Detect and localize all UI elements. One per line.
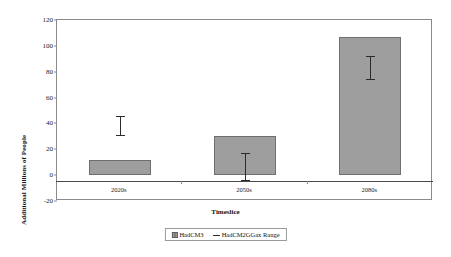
x-axis-tick-mark [307, 181, 308, 184]
error-bar-cap-2080s-low [366, 79, 375, 80]
error-bar-2080s [370, 56, 371, 79]
y-axis-tick-mark [54, 97, 57, 98]
y-axis-tick-label: 100 [43, 42, 54, 49]
plot-area: 120100806040200-20 [56, 19, 432, 200]
x-axis-tick-label-2020s: 2020s [111, 186, 127, 193]
y-axis-tick-label: 60 [46, 94, 53, 101]
y-axis-tick-label: -20 [44, 198, 53, 205]
bar-swatch-icon [171, 232, 177, 238]
legend-item-series: HadCM3 [171, 231, 203, 238]
y-axis-tick-mark [54, 175, 57, 176]
error-bar-2020s [120, 116, 121, 135]
x-axis-title: Timeslice [0, 208, 451, 216]
y-axis-tick-mark [54, 71, 57, 72]
x-axis-tick-label-2050s: 2050s [236, 186, 252, 193]
legend-label-series: HadCM3 [179, 231, 203, 238]
y-axis-tick-label: 120 [43, 17, 54, 24]
y-axis-tick-mark [54, 45, 57, 46]
error-bar-cap-2050s-high [241, 153, 250, 154]
y-axis-tick-label: 80 [46, 68, 53, 75]
x-axis-tick-label-2080s: 2080s [362, 186, 378, 193]
y-axis-tick-mark [54, 20, 57, 21]
error-bar-cap-2080s-high [366, 56, 375, 57]
zero-baseline [56, 181, 433, 182]
y-axis-tick-label: 0 [50, 172, 54, 179]
y-axis-tick-mark [54, 149, 57, 150]
error-bar-cap-2020s-high [116, 116, 125, 117]
error-bar-2050s [245, 153, 246, 180]
legend-item-range: HadCM2GGax Range [213, 231, 280, 238]
chart-legend: HadCM3 HadCM2GGax Range [164, 228, 286, 241]
x-axis-tick-mark [181, 181, 182, 184]
y-axis-title: Additional Millions of People [20, 105, 28, 225]
bar-2020s [89, 160, 151, 175]
error-bar-cap-2020s-low [116, 135, 125, 136]
y-axis-tick-label: 20 [46, 146, 53, 153]
y-axis-tick-mark [54, 201, 57, 202]
legend-label-range: HadCM2GGax Range [222, 231, 280, 238]
y-axis-tick-label: 40 [46, 120, 53, 127]
error-bar-swatch-icon [213, 231, 220, 238]
y-axis-tick-mark [54, 123, 57, 124]
chart-container: Additional Millions of People 1201008060… [0, 0, 451, 257]
